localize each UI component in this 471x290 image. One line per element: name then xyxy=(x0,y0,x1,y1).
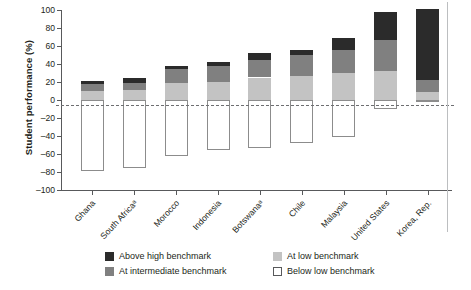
bar-segment-at-intermediate xyxy=(374,40,397,72)
y-tick-label: 20 xyxy=(45,77,55,87)
x-tick-label: Morocco xyxy=(152,198,182,229)
bar-segment-at-intermediate xyxy=(248,60,271,77)
x-tick-mark xyxy=(386,190,387,195)
y-tick-label: 0 xyxy=(50,95,55,105)
bar-stack xyxy=(332,10,355,190)
bar-segment-at-low xyxy=(248,78,271,101)
y-tick-mark xyxy=(57,82,62,83)
bar-segment-at-low xyxy=(416,92,439,100)
y-tick-mark xyxy=(57,154,62,155)
legend-swatch-icon xyxy=(105,267,114,276)
x-tick-mark xyxy=(260,190,261,195)
y-tick-label: –40 xyxy=(41,131,55,141)
bar-segment-at-low xyxy=(207,82,230,100)
bar-segment-below-low xyxy=(248,100,271,148)
chart-figure: Student performance (%) 100806040200–20–… xyxy=(0,0,471,290)
y-tick-mark xyxy=(57,46,62,47)
korea-separator-rule xyxy=(447,2,448,232)
bar-segment-above-high xyxy=(165,66,188,70)
bar-segment-at-intermediate xyxy=(207,66,230,82)
x-axis-line xyxy=(61,190,452,191)
y-tick-label: –60 xyxy=(41,149,55,159)
bar-segment-below-low xyxy=(207,100,230,150)
bar-stack xyxy=(165,10,188,190)
y-tick-mark xyxy=(57,28,62,29)
x-tick-label: Botswanaᵃ xyxy=(230,198,265,235)
chart-legend: Above high benchmarkAt low benchmarkAt i… xyxy=(105,249,445,279)
bar-segment-above-high xyxy=(207,62,230,66)
legend-item: Below low benchmark xyxy=(273,267,445,276)
bar-segment-at-low xyxy=(374,71,397,100)
bar-segment-above-high xyxy=(332,38,355,50)
legend-label: At intermediate benchmark xyxy=(119,267,227,276)
legend-item: Above high benchmark xyxy=(105,252,273,261)
y-tick-label: –100 xyxy=(36,185,55,195)
y-tick-label: 40 xyxy=(45,59,55,69)
bar-segment-at-low xyxy=(165,83,188,100)
y-tick-mark xyxy=(57,190,62,191)
legend-label: Below low benchmark xyxy=(287,267,375,276)
legend-item: At low benchmark xyxy=(273,252,445,261)
y-tick-mark xyxy=(57,118,62,119)
x-tick-mark xyxy=(302,190,303,195)
bar-stack xyxy=(374,10,397,190)
bar-segment-at-low xyxy=(290,76,313,100)
bar-segment-at-intermediate xyxy=(332,50,355,73)
bar-segment-below-low xyxy=(290,100,313,143)
bar-segment-above-high xyxy=(123,78,146,83)
bar-segment-above-high xyxy=(416,9,439,80)
bar-segment-below-low xyxy=(165,100,188,156)
bar-segment-above-high xyxy=(374,12,397,40)
y-tick-mark xyxy=(57,10,62,11)
bar-segment-at-intermediate xyxy=(165,69,188,83)
x-tick-label: South Africaᵃ xyxy=(98,198,139,241)
legend-swatch-icon xyxy=(273,267,282,276)
bar-stack xyxy=(123,10,146,190)
bar-segment-above-high xyxy=(81,81,104,84)
legend-swatch-icon xyxy=(273,252,282,261)
bar-stack xyxy=(416,10,439,190)
bar-stack xyxy=(290,10,313,190)
bar-segment-above-high xyxy=(248,53,271,60)
x-tick-label: Ghana xyxy=(73,198,98,224)
y-tick-label: –20 xyxy=(41,113,55,123)
bar-segment-at-intermediate xyxy=(123,83,146,90)
x-tick-mark xyxy=(344,190,345,195)
bar-segment-above-high xyxy=(290,50,313,55)
legend-label: At low benchmark xyxy=(287,252,359,261)
y-tick-mark xyxy=(57,136,62,137)
legend-item: At intermediate benchmark xyxy=(105,267,273,276)
zero-reference-line xyxy=(56,105,454,106)
y-tick-mark xyxy=(57,172,62,173)
legend-label: Above high benchmark xyxy=(119,252,211,261)
bar-segment-at-low xyxy=(123,90,146,100)
y-tick-mark xyxy=(57,100,62,101)
x-tick-label: Malaysia xyxy=(319,198,349,230)
legend-swatch-icon xyxy=(105,252,114,261)
x-tick-label: Chile xyxy=(286,198,307,219)
plot-area: 100806040200–20–40–60–80–100 GhanaSouth … xyxy=(62,10,452,190)
x-tick-label: United States xyxy=(349,198,392,243)
bar-stack xyxy=(207,10,230,190)
bar-segment-at-low xyxy=(332,73,355,100)
bar-segment-at-intermediate xyxy=(290,55,313,76)
bar-segment-at-intermediate xyxy=(81,84,104,91)
x-tick-mark xyxy=(92,190,93,195)
y-tick-label: –80 xyxy=(41,167,55,177)
y-tick-label: 100 xyxy=(41,5,55,15)
bar-stack xyxy=(81,10,104,190)
y-tick-label: 80 xyxy=(45,23,55,33)
x-tick-mark xyxy=(218,190,219,195)
x-tick-mark xyxy=(176,190,177,195)
bar-segment-below-low xyxy=(123,100,146,168)
bar-stack xyxy=(248,10,271,190)
x-tick-mark xyxy=(428,190,429,195)
y-axis-title: Student performance (%) xyxy=(23,8,34,188)
bar-segment-below-low xyxy=(416,100,439,102)
bar-segment-below-low xyxy=(81,100,104,171)
x-tick-mark xyxy=(134,190,135,195)
y-tick-mark xyxy=(57,64,62,65)
y-tick-label: 60 xyxy=(45,41,55,51)
x-tick-label: Korea, Rep. xyxy=(394,198,433,238)
x-tick-label: Indonesia xyxy=(191,198,224,232)
